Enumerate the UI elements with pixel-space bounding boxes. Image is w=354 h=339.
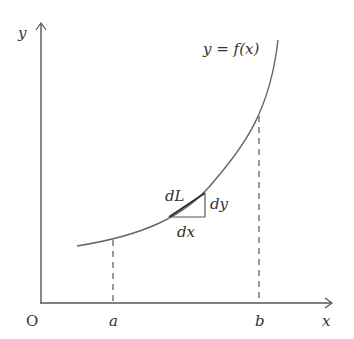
arc-length-diagram: y x O a b y = f(x) dL dy dx (0, 0, 354, 339)
dx-label: dx (177, 223, 196, 241)
dl-label: dL (165, 187, 185, 205)
y-axis-label: y (17, 24, 27, 42)
curve-f (77, 40, 278, 246)
dy-label: dy (210, 195, 229, 213)
origin-label: O (26, 312, 38, 330)
curve-label: y = f(x) (202, 40, 259, 58)
b-label: b (255, 312, 265, 330)
a-label: a (109, 312, 118, 330)
x-axis-label: x (322, 312, 331, 330)
